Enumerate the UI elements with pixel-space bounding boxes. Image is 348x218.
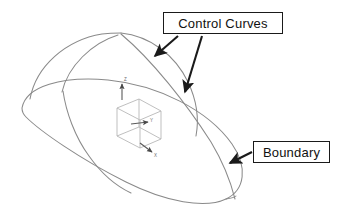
callout-control-curves-label: Control Curves bbox=[178, 16, 268, 31]
boundary-ellipse bbox=[22, 79, 242, 203]
sweeping-control-curve bbox=[121, 34, 235, 199]
triad-wireframe-box-base bbox=[117, 127, 161, 139]
callout-boundary-label: Boundary bbox=[263, 145, 320, 160]
control-curve-right-arc bbox=[121, 33, 197, 136]
axis-z-label: Z bbox=[124, 77, 127, 82]
callout-boundary: Boundary bbox=[253, 141, 330, 163]
diagram-canvas: Z Y X Control Curves Boundary bbox=[0, 0, 348, 218]
axis-y-label: Y bbox=[150, 118, 153, 123]
axis-y bbox=[131, 122, 148, 124]
axis-x-label: X bbox=[154, 153, 157, 158]
callout-control-curves: Control Curves bbox=[163, 12, 283, 34]
control-curve-cross-arc-left bbox=[62, 35, 118, 92]
control-curve-left-arc bbox=[30, 33, 121, 99]
leader-arrow-control-curve-2 bbox=[185, 36, 202, 92]
